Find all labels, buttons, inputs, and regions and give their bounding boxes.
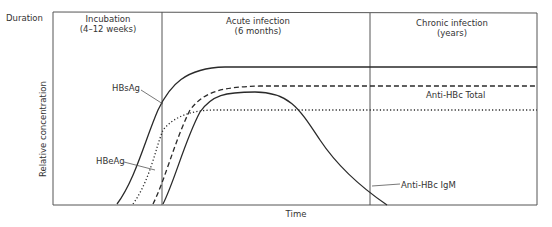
label-hbeag: HBeAg	[96, 156, 125, 166]
curve-anti-hbc-igm	[163, 92, 387, 205]
phase-incubation-title: Incubation	[86, 14, 131, 24]
leader-hbeag	[124, 162, 155, 170]
top-border	[53, 12, 537, 13]
label-anti-hbc-total: Anti-HBc Total	[426, 90, 485, 100]
x-axis-label: Time	[286, 209, 307, 219]
leader-hbsag	[141, 90, 163, 104]
curve-hbsag	[117, 67, 537, 204]
phase-acute-title: Acute infection	[226, 16, 290, 26]
phase-incubation-subtitle: (4–12 weeks)	[80, 24, 137, 34]
y-axis-label: Relative concentration	[38, 81, 48, 177]
frame	[53, 12, 537, 205]
leader-anti-hbc-igm	[372, 184, 400, 186]
phase-chronic-title: Chronic infection	[416, 18, 488, 28]
duration-label: Duration	[6, 13, 43, 23]
curve-anti-hbc-total	[153, 86, 537, 204]
phase-acute-subtitle: (6 months)	[235, 26, 282, 36]
label-hbsag: HBsAg	[112, 83, 140, 93]
label-anti-hbc-igm: Anti-HBc IgM	[401, 180, 456, 190]
phase-chronic-subtitle: (years)	[437, 28, 467, 38]
